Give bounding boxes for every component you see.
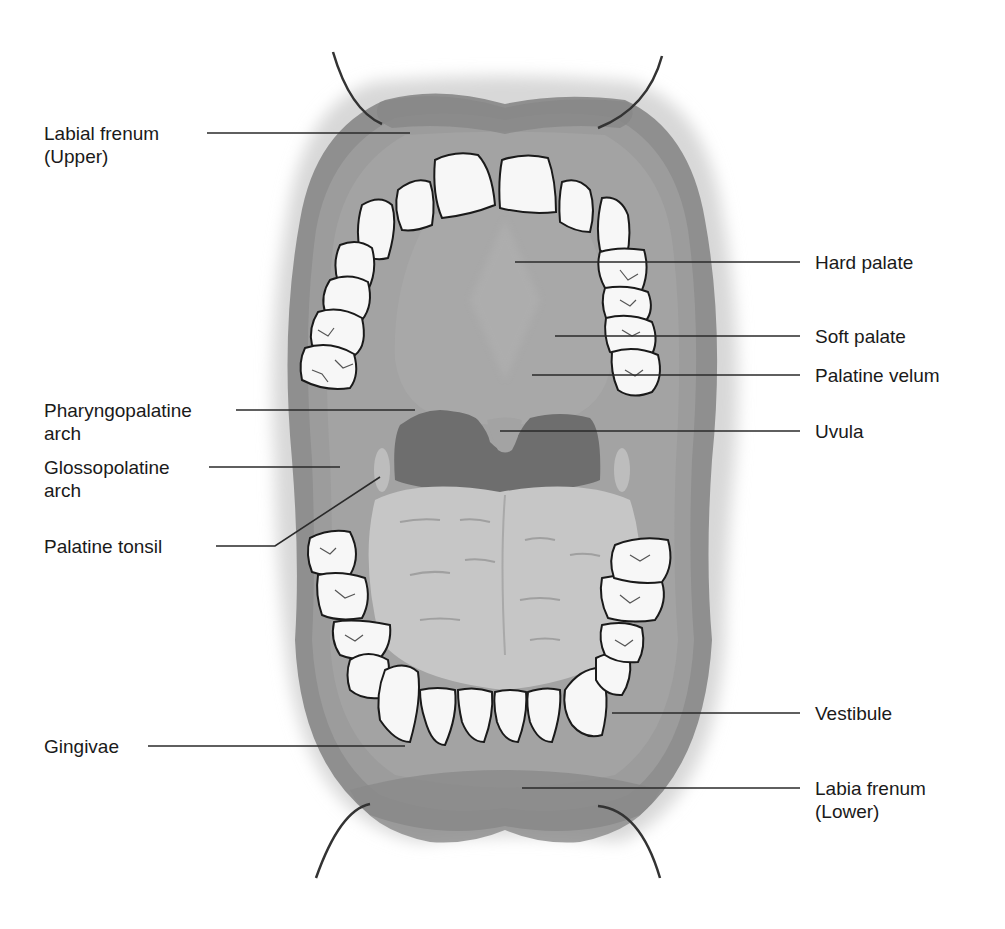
label-uvula: Uvula: [815, 420, 864, 443]
label-labia-frenum-lower: Labia frenum (Lower): [815, 777, 926, 823]
label-line: Vestibule: [815, 702, 892, 725]
label-line: Pharyngopalatine: [44, 399, 192, 422]
label-labial-frenum-upper: Labial frenum (Upper): [44, 122, 159, 168]
palate: [395, 208, 612, 426]
label-hard-palate: Hard palate: [815, 251, 913, 274]
label-line: arch: [44, 479, 170, 502]
label-palatine-velum: Palatine velum: [815, 364, 940, 387]
label-palatine-tonsil: Palatine tonsil: [44, 535, 162, 558]
label-line: Palatine tonsil: [44, 535, 162, 558]
label-line: Gingivae: [44, 735, 119, 758]
label-line: Soft palate: [815, 325, 906, 348]
label-line: Labial frenum: [44, 122, 159, 145]
label-line: (Upper): [44, 145, 159, 168]
pharynx: [394, 410, 600, 493]
label-pharyngopalatine-arch: Pharyngopalatine arch: [44, 399, 192, 445]
label-glossopolatine-arch: Glossopolatine arch: [44, 456, 170, 502]
label-gingivae: Gingivae: [44, 735, 119, 758]
label-vestibule: Vestibule: [815, 702, 892, 725]
label-line: Palatine velum: [815, 364, 940, 387]
label-line: Glossopolatine: [44, 456, 170, 479]
label-line: Hard palate: [815, 251, 913, 274]
label-line: Uvula: [815, 420, 864, 443]
label-soft-palate: Soft palate: [815, 325, 906, 348]
label-line: Labia frenum: [815, 777, 926, 800]
label-line: (Lower): [815, 800, 926, 823]
label-line: arch: [44, 422, 192, 445]
